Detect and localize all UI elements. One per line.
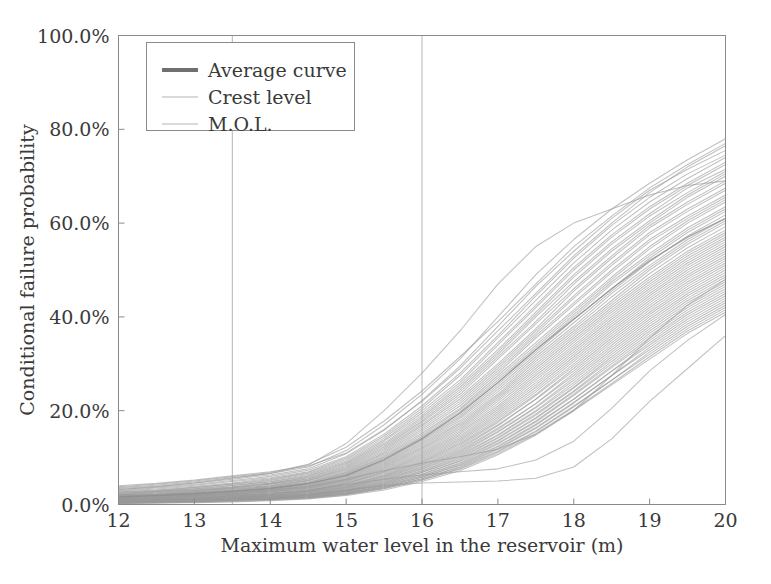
y-tick-label: 60.0% xyxy=(49,212,109,234)
x-tick-label: 16 xyxy=(410,509,434,531)
x-tick-label: 18 xyxy=(562,509,586,531)
y-axis-title: Conditional failure probability xyxy=(16,124,38,416)
chart-legend: Average curveCrest levelM.O.L. xyxy=(147,43,355,136)
y-tick-label: 0.0% xyxy=(61,494,109,516)
x-tick-label: 17 xyxy=(486,509,510,531)
x-tick-label: 13 xyxy=(182,509,206,531)
legend-label: Crest level xyxy=(208,86,312,108)
x-tick-label: 15 xyxy=(334,509,358,531)
x-tick-label: 14 xyxy=(258,509,282,531)
y-tick-label: 100.0% xyxy=(37,25,109,47)
legend-label: M.O.L. xyxy=(208,113,273,135)
y-tick-label: 20.0% xyxy=(49,400,109,422)
chart-figure: 121314151617181920 0.0%20.0%40.0%60.0%80… xyxy=(0,0,771,584)
x-tick-label: 19 xyxy=(638,509,662,531)
conditional-failure-probability-chart: 121314151617181920 0.0%20.0%40.0%60.0%80… xyxy=(0,0,771,584)
y-tick-label: 40.0% xyxy=(49,306,109,328)
legend-label: Average curve xyxy=(207,59,347,81)
y-tick-label: 80.0% xyxy=(49,118,109,140)
x-axis-title: Maximum water level in the reservoir (m) xyxy=(220,534,623,556)
x-tick-label: 20 xyxy=(713,509,737,531)
x-tick-label: 12 xyxy=(106,509,130,531)
